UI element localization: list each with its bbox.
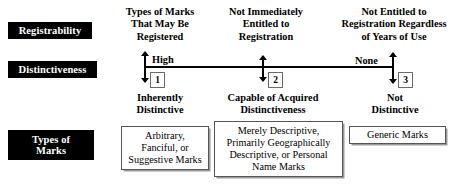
step-number-box-2: 2 bbox=[268, 72, 283, 88]
row-label-types-of-marks: Types of Marks bbox=[8, 130, 94, 160]
column-heading-not-immediately-entitled-line2: Entitled to bbox=[210, 18, 322, 30]
row-label-registrability: Registrability bbox=[8, 22, 92, 39]
mark-type-box-1-line3: Suggestive Marks bbox=[125, 154, 205, 166]
tier-caption-capable-of-acquired-distinctiveness-line1: Capable of Acquired bbox=[212, 92, 334, 104]
column-heading-not-entitled-line2: Registration Regardless bbox=[328, 18, 460, 30]
tier-caption-inherently-distinctive-line1: Inherently bbox=[108, 92, 212, 104]
mark-type-box-1-line1: Arbitrary, bbox=[125, 130, 205, 142]
mark-type-box-arbitrary-fanciful-suggestive: Arbitrary, Fanciful, or Suggestive Marks bbox=[121, 126, 209, 170]
tier-caption-not-distinctive-line1: Not bbox=[350, 92, 440, 104]
mark-type-box-generic-marks: Generic Marks bbox=[349, 126, 446, 144]
axis-marker-1-shaft bbox=[144, 55, 146, 79]
column-heading-registrable-line1: Types of Marks bbox=[104, 6, 216, 18]
tier-caption-inherently-distinctive-line2: Distinctive bbox=[108, 104, 212, 116]
tier-caption-not-distinctive-line2: Distinctive bbox=[350, 104, 440, 116]
tier-caption-inherently-distinctive: Inherently Distinctive bbox=[108, 92, 212, 116]
step-number-box-3: 3 bbox=[398, 72, 413, 88]
row-label-distinctiveness: Distinctiveness bbox=[8, 61, 97, 78]
mark-type-box-2-line4: Name Marks bbox=[218, 161, 339, 173]
axis-marker-3-arrow-head-down-icon bbox=[389, 79, 397, 84]
distinctiveness-spectrum-axis bbox=[144, 66, 393, 68]
row-label-distinctiveness-text: Distinctiveness bbox=[19, 64, 87, 75]
column-heading-not-immediately-entitled: Not Immediately Entitled to Registration bbox=[210, 6, 322, 43]
tier-caption-capable-of-acquired-distinctiveness: Capable of Acquired Distinctiveness bbox=[212, 92, 334, 116]
axis-marker-3-arrow-icon bbox=[388, 52, 397, 84]
mark-type-box-2-line3: Descriptive, or Personal bbox=[218, 149, 339, 161]
row-label-types-of-marks-line2: Marks bbox=[36, 145, 66, 156]
tier-caption-capable-of-acquired-distinctiveness-line2: Distinctiveness bbox=[212, 104, 334, 116]
axis-marker-3-shaft bbox=[392, 56, 394, 80]
column-heading-not-entitled: Not Entitled to Registration Regardless … bbox=[328, 6, 460, 43]
column-heading-registrable-line3: Registered bbox=[104, 31, 216, 43]
column-heading-not-entitled-line3: of Years of Use bbox=[328, 31, 460, 43]
mark-type-box-1-lines: Arbitrary, Fanciful, or Suggestive Marks bbox=[125, 130, 205, 167]
column-heading-not-immediately-entitled-line1: Not Immediately bbox=[210, 6, 322, 18]
mark-type-box-merely-descriptive: Merely Descriptive, Primarily Geographic… bbox=[214, 121, 343, 177]
mark-type-box-2-line1: Merely Descriptive, bbox=[218, 125, 339, 137]
mark-type-box-2-line2: Primarily Geographically bbox=[218, 137, 339, 149]
mark-type-box-1-line2: Fanciful, or bbox=[125, 142, 205, 154]
axis-marker-2-shaft bbox=[262, 59, 264, 78]
axis-marker-1-arrow-icon bbox=[140, 51, 149, 83]
axis-marker-2-arrow-icon bbox=[258, 55, 267, 82]
column-heading-not-entitled-line1: Not Entitled to bbox=[328, 6, 460, 18]
row-label-types-of-marks-line1: Types of bbox=[32, 134, 70, 145]
row-label-registrability-text: Registrability bbox=[19, 25, 82, 36]
mark-type-box-3-lines: Generic Marks bbox=[353, 129, 442, 141]
axis-endpoint-none-label: None bbox=[355, 55, 378, 66]
axis-marker-1-arrow-head-down-icon bbox=[141, 78, 149, 83]
mark-type-box-2-lines: Merely Descriptive, Primarily Geographic… bbox=[218, 125, 339, 174]
axis-endpoint-high-label: High bbox=[152, 54, 174, 65]
step-number-box-1: 1 bbox=[150, 72, 165, 88]
column-heading-registrable: Types of Marks That May Be Registered bbox=[104, 6, 216, 43]
axis-marker-2-arrow-head-down-icon bbox=[259, 77, 267, 82]
column-heading-not-immediately-entitled-line3: Registration bbox=[210, 31, 322, 43]
mark-type-box-3-line1: Generic Marks bbox=[353, 129, 442, 141]
tier-caption-not-distinctive: Not Distinctive bbox=[350, 92, 440, 116]
column-heading-registrable-line2: That May Be bbox=[104, 18, 216, 30]
